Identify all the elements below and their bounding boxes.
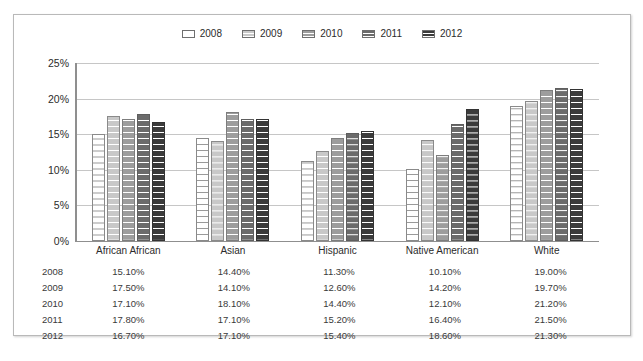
y-axis-tick-label: 10% (48, 164, 69, 176)
table-cell-year: 2010 (32, 295, 94, 311)
x-axis-label: Hispanic (285, 245, 390, 256)
table-cell-value: 18.10% (200, 295, 306, 311)
bar-2012[interactable] (256, 119, 269, 241)
table-cell-value: 21.20% (516, 295, 622, 311)
table-cell-value: 17.10% (200, 311, 306, 327)
legend-label: 2011 (380, 29, 402, 39)
legend-item-2010[interactable]: 2010 (302, 29, 342, 39)
table-cell-value: 17.50% (94, 279, 200, 295)
y-axis-tick-label: 15% (48, 128, 69, 140)
bar-2010[interactable] (122, 119, 135, 241)
bar-2008[interactable] (406, 169, 419, 241)
bar-2009[interactable] (421, 140, 434, 241)
legend-swatch-icon (362, 30, 375, 38)
table-cell-value: 11.30% (305, 263, 411, 279)
table-cell-value: 19.70% (516, 279, 622, 295)
bar-group (285, 63, 390, 241)
table-cell-value: 14.10% (200, 279, 306, 295)
table-cell-value: 21.50% (516, 311, 622, 327)
table-row: 201017.10%18.10%14.40%12.10%21.20% (32, 295, 622, 311)
y-axis-tick-label: 25% (48, 57, 69, 69)
table-cell-value: 12.60% (305, 279, 411, 295)
legend-swatch-icon (182, 30, 195, 38)
table-cell-value: 14.40% (200, 263, 306, 279)
table-row: 200815.10%14.40%11.30%10.10%19.00% (32, 263, 622, 279)
legend-swatch-icon (302, 30, 315, 38)
bar-group (76, 63, 181, 241)
bar-2009[interactable] (316, 151, 329, 241)
bar-2010[interactable] (331, 138, 344, 241)
table-cell-value: 14.20% (411, 279, 517, 295)
legend-swatch-icon (242, 30, 255, 38)
bar-2008[interactable] (196, 138, 209, 241)
x-axis-labels: African AfricanAsianHispanicNative Ameri… (76, 245, 599, 256)
table-cell-value: 17.80% (94, 311, 200, 327)
bar-group (494, 63, 599, 241)
bar-2011[interactable] (346, 133, 359, 241)
table-cell-year: 2008 (32, 263, 94, 279)
bar-2009[interactable] (107, 116, 120, 241)
bar-2008[interactable] (510, 106, 523, 241)
bar-2008[interactable] (301, 161, 314, 241)
bar-2012[interactable] (466, 109, 479, 241)
bar-2011[interactable] (555, 88, 568, 241)
table-cell-year: 2011 (32, 311, 94, 327)
legend-label: 2009 (260, 29, 282, 39)
table-cell-value: 15.10% (94, 263, 200, 279)
table-cell-value: 16.70% (94, 327, 200, 343)
table-cell-value: 15.40% (305, 327, 411, 343)
y-axis-tick-label: 5% (54, 199, 69, 211)
bar-2009[interactable] (525, 101, 538, 241)
x-axis-line (75, 241, 599, 242)
table-cell-value: 17.10% (94, 295, 200, 311)
bar-2011[interactable] (137, 114, 150, 241)
x-axis-label: White (494, 245, 599, 256)
bar-2011[interactable] (451, 124, 464, 241)
bar-2012[interactable] (152, 122, 165, 241)
bar-2010[interactable] (540, 90, 553, 241)
table-row: 200917.50%14.10%12.60%14.20%19.70% (32, 279, 622, 295)
x-axis-label: Asian (181, 245, 286, 256)
bar-2010[interactable] (436, 155, 449, 241)
legend-item-2008[interactable]: 2008 (182, 29, 222, 39)
data-table-body: 200815.10%14.40%11.30%10.10%19.00%200917… (32, 263, 622, 343)
legend-label: 2008 (200, 29, 222, 39)
y-axis-tick-label: 20% (48, 93, 69, 105)
table-cell-year: 2009 (32, 279, 94, 295)
legend-label: 2010 (320, 29, 342, 39)
bar-2012[interactable] (361, 131, 374, 241)
chart-figure: 20082009201020112012 0%5%10%15%20%25% Af… (13, 14, 631, 336)
table-cell-value: 12.10% (411, 295, 517, 311)
table-cell-value: 21.30% (516, 327, 622, 343)
bar-groups (76, 63, 599, 241)
bar-2009[interactable] (211, 141, 224, 241)
bar-2012[interactable] (570, 89, 583, 241)
legend-item-2009[interactable]: 2009 (242, 29, 282, 39)
table-cell-value: 16.40% (411, 311, 517, 327)
table-cell-value: 14.40% (305, 295, 411, 311)
bar-2008[interactable] (92, 134, 105, 242)
table-cell-value: 17.10% (200, 327, 306, 343)
table-cell-value: 15.20% (305, 311, 411, 327)
chart-legend: 20082009201020112012 (14, 29, 630, 39)
table-cell-year: 2012 (32, 327, 94, 343)
table-row: 201117.80%17.10%15.20%16.40%21.50% (32, 311, 622, 327)
legend-label: 2012 (440, 29, 462, 39)
table-cell-value: 10.10% (411, 263, 517, 279)
x-axis-label: Native American (390, 245, 495, 256)
plot-area: 0%5%10%15%20%25% (76, 63, 599, 241)
bar-group (181, 63, 286, 241)
bar-2010[interactable] (226, 112, 239, 241)
table-cell-value: 18.60% (411, 327, 517, 343)
table-row: 201216.70%17.10%15.40%18.60%21.30% (32, 327, 622, 343)
bar-2011[interactable] (241, 119, 254, 241)
bar-group (390, 63, 495, 241)
legend-item-2011[interactable]: 2011 (362, 29, 402, 39)
legend-swatch-icon (422, 30, 435, 38)
y-axis-tick-label: 0% (54, 235, 69, 247)
data-table: 200815.10%14.40%11.30%10.10%19.00%200917… (32, 263, 622, 343)
legend-item-2012[interactable]: 2012 (422, 29, 462, 39)
table-cell-value: 19.00% (516, 263, 622, 279)
x-axis-label: African African (76, 245, 181, 256)
